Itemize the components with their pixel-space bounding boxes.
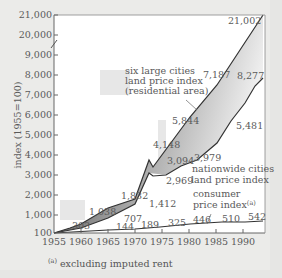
svg-text:1,000: 1,000 xyxy=(25,209,52,220)
footnote: (a) excluding imputed rent xyxy=(48,257,173,269)
svg-text:price index(a): price index(a) xyxy=(193,199,256,210)
svg-text:5,844: 5,844 xyxy=(172,115,199,126)
chart-svg: 21,000 20,000 9,000 8,000 7,000 6,000 5,… xyxy=(0,0,282,278)
svg-text:1965: 1965 xyxy=(96,236,120,247)
svg-text:5,481: 5,481 xyxy=(236,120,263,131)
footnote-text: excluding imputed rent xyxy=(60,258,173,269)
svg-text:nationwide cities: nationwide cities xyxy=(192,163,274,174)
svg-text:4,000: 4,000 xyxy=(25,149,52,160)
svg-text:1990: 1990 xyxy=(231,236,255,247)
svg-text:8,000: 8,000 xyxy=(25,69,52,80)
svg-text:(residential area): (residential area) xyxy=(125,85,208,96)
svg-text:land price index: land price index xyxy=(191,174,269,185)
svg-text:5,000: 5,000 xyxy=(25,129,52,140)
svg-text:510: 510 xyxy=(222,213,240,224)
svg-text:1985: 1985 xyxy=(204,236,228,247)
svg-text:9,000: 9,000 xyxy=(25,49,52,60)
nationwide-annotation: nationwide cities land price index xyxy=(191,163,274,185)
svg-text:144: 144 xyxy=(116,221,134,232)
svg-text:1,412: 1,412 xyxy=(149,198,176,209)
svg-text:consumer: consumer xyxy=(193,188,241,199)
svg-text:1975: 1975 xyxy=(150,236,174,247)
svg-text:1,038: 1,038 xyxy=(89,206,116,217)
svg-text:1980: 1980 xyxy=(177,236,201,247)
footnote-mark: (a) xyxy=(48,257,57,265)
svg-text:8,277: 8,277 xyxy=(237,70,264,81)
svg-text:303: 303 xyxy=(72,220,90,231)
svg-text:21,000: 21,000 xyxy=(19,9,52,20)
svg-text:3,094: 3,094 xyxy=(167,155,194,166)
y-tick-labels: 21,000 20,000 9,000 8,000 7,000 6,000 5,… xyxy=(19,9,52,238)
svg-text:2,000: 2,000 xyxy=(25,189,52,200)
svg-text:21,002: 21,002 xyxy=(228,15,261,26)
x-tick-labels: 1955 1960 1965 1970 1975 1980 1985 1990 xyxy=(42,236,255,247)
svg-text:542: 542 xyxy=(248,211,266,222)
svg-text:3,000: 3,000 xyxy=(25,169,52,180)
svg-text:446: 446 xyxy=(193,214,211,225)
svg-text:6,000: 6,000 xyxy=(25,109,52,120)
svg-text:1,832: 1,832 xyxy=(121,190,148,201)
svg-text:1955: 1955 xyxy=(42,236,66,247)
svg-text:1970: 1970 xyxy=(123,236,147,247)
svg-text:1960: 1960 xyxy=(69,236,93,247)
svg-text:7,000: 7,000 xyxy=(25,89,52,100)
svg-text:189: 189 xyxy=(141,219,159,230)
svg-text:2,969: 2,969 xyxy=(166,175,193,186)
svg-text:20,000: 20,000 xyxy=(19,29,52,40)
svg-text:325: 325 xyxy=(168,217,186,228)
y-axis-label: index (1955=100) xyxy=(12,82,23,169)
svg-text:7,187: 7,187 xyxy=(203,69,230,80)
svg-text:3,979: 3,979 xyxy=(194,152,221,163)
svg-text:4,148: 4,148 xyxy=(153,139,180,150)
